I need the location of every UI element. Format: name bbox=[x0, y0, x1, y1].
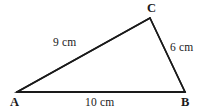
side-length-label-ac: 9 cm bbox=[53, 37, 76, 49]
side-length-label-ab: 10 cm bbox=[85, 97, 114, 109]
side-line-ac bbox=[17, 18, 150, 92]
side-line-cb bbox=[150, 18, 185, 92]
triangle-outline bbox=[17, 18, 185, 92]
vertex-label-a: A bbox=[10, 96, 19, 109]
geometry-diagram: A B C 9 cm 6 cm 10 cm bbox=[0, 0, 207, 112]
side-length-label-cb: 6 cm bbox=[170, 42, 193, 54]
vertex-label-c: C bbox=[147, 2, 156, 15]
vertex-label-b: B bbox=[181, 96, 190, 109]
